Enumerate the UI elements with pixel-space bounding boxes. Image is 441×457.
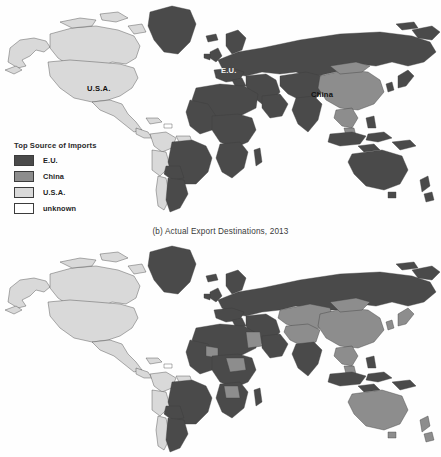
legend-item-usa-top: U.S.A. [14, 186, 126, 199]
legend-item-unknown-top: unknown [14, 202, 126, 215]
map-label-usa-top: U.S.A. [87, 84, 111, 93]
legend-label-usa-top: U.S.A. [43, 188, 65, 197]
legend-label-china-top: China [43, 172, 64, 181]
legend-label-unknown-top: unknown [43, 204, 76, 213]
map-label-china-top: China [311, 90, 333, 99]
bottom-map-panel: U.S.A. E.U China Top Source of Imports E… [0, 240, 441, 457]
legend-swatch-eu-top [14, 155, 34, 166]
legend-title-top: Top Source of Imports [14, 141, 126, 150]
bottom-world-map [0, 240, 441, 457]
legend-item-eu-top: E.U. [14, 154, 126, 167]
top-map-panel: U.S.A. E.U. China Top Source of Imports … [0, 0, 441, 218]
legend-swatch-usa-top [14, 187, 34, 198]
legend-item-china-top: China [14, 170, 126, 183]
legend-top: Top Source of Imports E.U. China U.S.A. … [14, 141, 126, 218]
legend-swatch-unknown-top [14, 203, 34, 214]
legend-label-eu-top: E.U. [43, 156, 58, 165]
legend-swatch-china-top [14, 171, 34, 182]
figure-caption-b: (b) Actual Export Destinations, 2013 [0, 226, 441, 237]
figure-world-trade-maps: U.S.A. E.U. China Top Source of Imports … [0, 0, 441, 457]
map-label-eu-top: E.U. [221, 66, 237, 75]
